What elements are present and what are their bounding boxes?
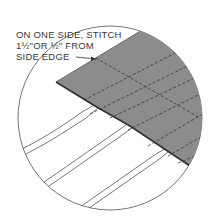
- callout-line-3: SIDE EDGE: [16, 51, 122, 62]
- callout-line-1: ON ONE SIDE, STITCH: [16, 29, 122, 40]
- callout-line-2: 1½"OR ½" FROM: [16, 40, 122, 51]
- stitch-instruction-callout: ON ONE SIDE, STITCH1½"OR ½" FROMSIDE EDG…: [16, 29, 122, 62]
